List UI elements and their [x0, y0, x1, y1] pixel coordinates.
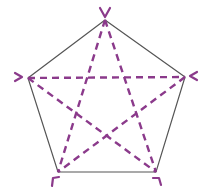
pentagon-diagram	[0, 0, 205, 188]
diagonals	[28, 20, 185, 172]
diagonal-left-right	[28, 77, 185, 78]
diagonal-top-bottomleft	[58, 20, 105, 172]
vertex-mark-right-icon	[190, 72, 197, 80]
diagonal-top-bottomright	[105, 20, 156, 172]
vertex-marks	[15, 8, 197, 186]
vertex-mark-bottomright-icon	[153, 178, 161, 185]
vertex-mark-left-icon	[15, 73, 22, 81]
vertex-mark-bottomleft-icon	[52, 177, 59, 186]
diagonal-left-bottomright	[28, 78, 156, 172]
vertex-mark-top-icon	[100, 8, 110, 17]
diagonal-right-bottomleft	[58, 77, 185, 172]
